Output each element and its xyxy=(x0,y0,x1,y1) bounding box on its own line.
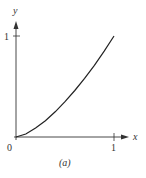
x-axis-arrow-icon xyxy=(121,135,129,140)
x-axis-label: x xyxy=(132,131,138,142)
data-curve xyxy=(16,36,114,137)
y-axis-label: y xyxy=(12,5,18,16)
y-tick-label: 1 xyxy=(4,31,9,42)
origin-label: 0 xyxy=(7,142,12,153)
caption: (a) xyxy=(59,157,71,169)
plot: y 1 0 1 x (a) xyxy=(0,0,146,178)
x-tick-label: 1 xyxy=(111,142,116,153)
y-axis-arrow-icon xyxy=(14,21,19,29)
